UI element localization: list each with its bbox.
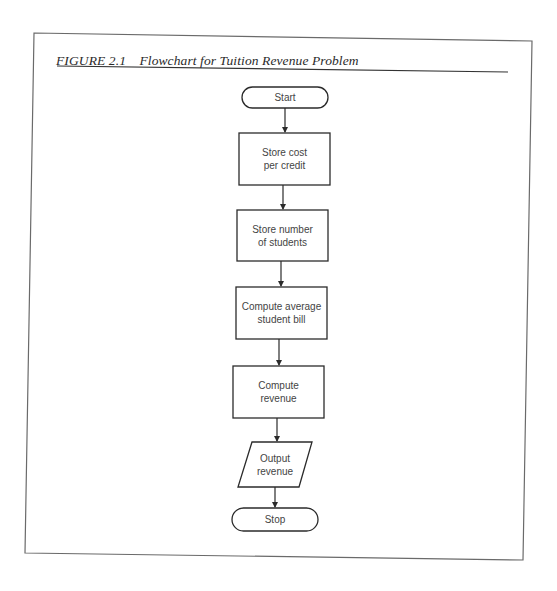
figure-title: Flowchart for Tuition Revenue Problem — [139, 53, 358, 68]
store-cost-label: Store cost per credit — [239, 133, 330, 185]
figure: FIGURE 2.1 Flowchart for Tuition Revenue… — [0, 0, 557, 591]
stop-label: Stop — [232, 508, 318, 531]
compute-bill-label: Compute average student bill — [236, 287, 327, 339]
compute-revenue-label: Compute revenue — [233, 366, 324, 418]
store-students-label: Store number of students — [237, 210, 328, 261]
output-revenue-label: Output revenue — [240, 442, 310, 487]
start-label: Start — [242, 87, 328, 108]
figure-caption: FIGURE 2.1 Flowchart for Tuition Revenue… — [56, 53, 359, 69]
figure-number: FIGURE 2.1 — [56, 53, 126, 68]
